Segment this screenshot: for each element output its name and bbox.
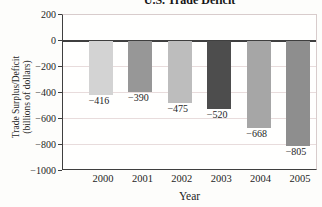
bar-2001 <box>128 41 152 92</box>
y-tick-label--400: −400 <box>20 87 56 98</box>
y-tick-mark--800 <box>58 144 62 145</box>
y-tick-label--1000: −1000 <box>20 165 56 176</box>
y-tick-mark-0 <box>58 40 62 41</box>
y-tick-label-200: 200 <box>20 9 56 20</box>
x-tick-label-2002: 2002 <box>162 173 202 184</box>
y-tick-label-0: 0 <box>20 35 56 46</box>
x-tick-label-2001: 2001 <box>122 173 162 184</box>
bar-value-label-2001: −390 <box>118 92 158 103</box>
bar-2005 <box>286 41 310 146</box>
x-tick-label-2003: 2003 <box>201 173 241 184</box>
bar-value-label-2005: −805 <box>276 146 316 157</box>
bar-2003 <box>207 41 231 109</box>
bar-value-label-2002: −475 <box>158 103 198 114</box>
chart-title: U.S. Trade Deficit <box>62 0 317 8</box>
y-tick-mark--400 <box>58 92 62 93</box>
y-tick-mark--200 <box>58 66 62 67</box>
gridline--600 <box>63 118 316 119</box>
bar-value-label-2000: −416 <box>79 95 119 106</box>
bar-2000 <box>89 41 113 95</box>
bar-2002 <box>168 41 192 103</box>
y-tick-mark-200 <box>58 14 62 15</box>
trade-deficit-chart: U.S. Trade Deficit Trade Surplus/Deficit… <box>0 0 322 207</box>
y-tick-mark--1000 <box>58 170 62 171</box>
y-tick-label--200: −200 <box>20 61 56 72</box>
x-tick-label-2000: 2000 <box>83 173 123 184</box>
x-axis-title: Year <box>62 190 317 202</box>
y-tick-mark--600 <box>58 118 62 119</box>
x-tick-label-2004: 2004 <box>241 173 281 184</box>
bar-value-label-2004: −668 <box>237 128 277 139</box>
bar-value-label-2003: −520 <box>197 109 237 120</box>
y-tick-label--800: −800 <box>20 139 56 150</box>
y-tick-label--600: −600 <box>20 113 56 124</box>
x-tick-label-2005: 2005 <box>280 173 320 184</box>
bar-2004 <box>247 41 271 128</box>
